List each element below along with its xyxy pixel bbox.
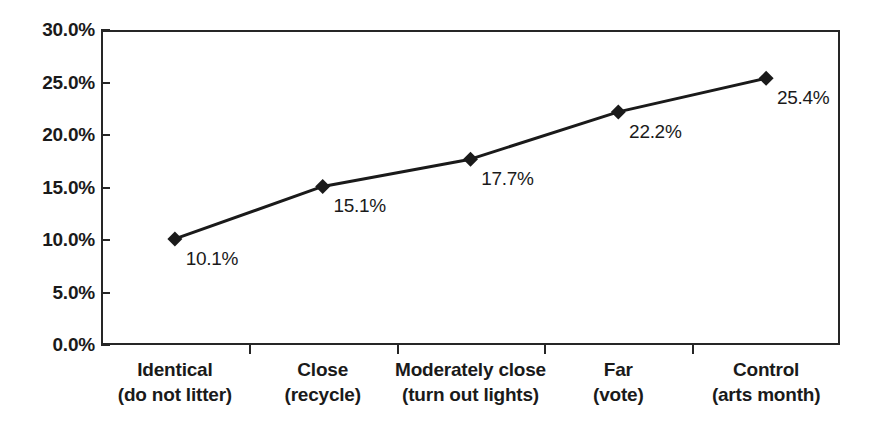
y-tick-label: 10.0%: [9, 229, 95, 251]
x-tick-label-far: Far (vote): [593, 357, 644, 408]
x-tick-mark: [397, 345, 399, 354]
x-tick-label-moderately-close: Moderately close (turn out lights): [395, 357, 546, 408]
y-tick-mark: [101, 344, 110, 346]
y-tick-mark: [101, 29, 110, 31]
chart-container: 30.0% 25.0% 20.0% 15.0% 10.0% 5.0% 0.0% …: [0, 0, 874, 424]
data-point-label: 17.7%: [481, 168, 533, 190]
x-tick-label-control: Control (arts month): [712, 357, 820, 408]
x-label-line-1: Control: [733, 359, 799, 380]
y-tick-mark: [101, 82, 110, 84]
data-point-label: 15.1%: [334, 195, 386, 217]
x-label-line-1: Close: [297, 359, 348, 380]
plot-area: [101, 30, 840, 345]
x-label-line-1: Moderately close: [395, 359, 546, 380]
y-tick-mark: [101, 292, 110, 294]
x-tick-mark: [544, 345, 546, 354]
data-point-label: 25.4%: [777, 87, 829, 109]
x-label-line-2: (turn out lights): [395, 382, 546, 407]
y-tick-label: 5.0%: [9, 282, 95, 304]
x-tick-label-close: Close (recycle): [285, 357, 361, 408]
x-tick-mark: [692, 345, 694, 354]
x-label-line-1: Identical: [137, 359, 212, 380]
x-tick-mark: [249, 345, 251, 354]
y-tick-label: 25.0%: [9, 72, 95, 94]
x-label-line-2: (recycle): [285, 382, 361, 407]
x-label-line-2: (do not litter): [118, 382, 232, 407]
data-point-label: 22.2%: [629, 121, 681, 143]
y-axis-labels: 30.0% 25.0% 20.0% 15.0% 10.0% 5.0% 0.0%: [0, 0, 95, 424]
y-tick-mark: [101, 187, 110, 189]
y-tick-label: 15.0%: [9, 177, 95, 199]
y-tick-label: 30.0%: [9, 19, 95, 41]
y-tick-mark: [101, 134, 110, 136]
x-tick-label-identical: Identical (do not litter): [118, 357, 232, 408]
y-tick-label: 20.0%: [9, 124, 95, 146]
x-label-line-2: (vote): [593, 382, 644, 407]
x-label-line-1: Far: [604, 359, 633, 380]
y-tick-mark: [101, 239, 110, 241]
x-label-line-2: (arts month): [712, 382, 820, 407]
y-tick-label: 0.0%: [9, 334, 95, 356]
data-point-label: 10.1%: [186, 248, 238, 270]
